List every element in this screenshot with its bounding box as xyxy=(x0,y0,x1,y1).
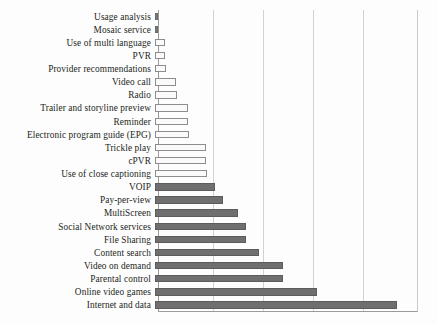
bar-light xyxy=(155,65,166,72)
bar-light xyxy=(155,91,177,98)
chart-row: PVR xyxy=(0,49,437,62)
chart-row: Reminder xyxy=(0,115,437,128)
category-label: Parental control xyxy=(0,274,155,284)
bar-cell xyxy=(155,220,437,233)
bar-light xyxy=(155,78,176,85)
category-label: Mosaic service xyxy=(0,25,155,35)
bar-cell xyxy=(155,76,437,89)
chart-row: MultiScreen xyxy=(0,207,437,220)
bar-cell xyxy=(155,286,437,299)
bar-cell xyxy=(155,233,437,246)
bar-light xyxy=(155,39,165,46)
bar-dark xyxy=(155,262,283,269)
chart-row: Usage analysis xyxy=(0,10,437,23)
bar-light xyxy=(155,157,206,164)
bar-dark xyxy=(155,183,215,190)
bar-cell xyxy=(155,128,437,141)
bar-cell xyxy=(155,63,437,76)
bar-cell xyxy=(155,194,437,207)
category-label: Video call xyxy=(0,77,155,87)
chart-row: Content search xyxy=(0,246,437,259)
category-label: Use of close captioning xyxy=(0,169,155,179)
bar-cell xyxy=(155,181,437,194)
category-label: Online video games xyxy=(0,287,155,297)
bar-dark xyxy=(155,275,283,282)
chart-row: Pay-per-view xyxy=(0,194,437,207)
chart-row: Use of close captioning xyxy=(0,168,437,181)
bar-light xyxy=(155,144,206,151)
chart-row: Parental control xyxy=(0,273,437,286)
chart-row: Provider recommendations xyxy=(0,63,437,76)
chart-row: Trickle play xyxy=(0,141,437,154)
category-label: Provider recommendations xyxy=(0,64,155,74)
chart-row: Trailer and storyline preview xyxy=(0,102,437,115)
bar-cell xyxy=(155,299,437,312)
chart-row: Mosaic service xyxy=(0,23,437,36)
chart-row: Internet and data xyxy=(0,299,437,312)
category-label: Trailer and storyline preview xyxy=(0,103,155,113)
bar-cell xyxy=(155,23,437,36)
bar-cell xyxy=(155,102,437,115)
bar-light xyxy=(155,118,188,125)
chart-row: Video on demand xyxy=(0,259,437,272)
chart-row: Use of multi language xyxy=(0,36,437,49)
bar-cell xyxy=(155,273,437,286)
chart-row: Radio xyxy=(0,89,437,102)
chart-row: Electronic program guide (EPG) xyxy=(0,128,437,141)
bar-dark xyxy=(155,223,246,230)
bar-cell xyxy=(155,154,437,167)
category-label: Video on demand xyxy=(0,261,155,271)
bar-dark xyxy=(155,196,223,203)
category-label: Trickle play xyxy=(0,143,155,153)
bar-cell xyxy=(155,141,437,154)
chart-row: Online video games xyxy=(0,286,437,299)
bar-light xyxy=(155,104,188,111)
category-label: PVR xyxy=(0,51,155,61)
category-label: Reminder xyxy=(0,117,155,127)
chart-row: Video call xyxy=(0,76,437,89)
category-label: Radio xyxy=(0,90,155,100)
category-label: Usage analysis xyxy=(0,12,155,22)
bar-cell xyxy=(155,246,437,259)
horizontal-bar-chart: Usage analysisMosaic serviceUse of multi… xyxy=(0,0,437,324)
bar-cell xyxy=(155,49,437,62)
bar-cell xyxy=(155,115,437,128)
category-label: Use of multi language xyxy=(0,38,155,48)
chart-rows: Usage analysisMosaic serviceUse of multi… xyxy=(0,10,437,312)
chart-row: cPVR xyxy=(0,154,437,167)
category-label: Content search xyxy=(0,248,155,258)
category-label: File Sharing xyxy=(0,235,155,245)
bar-dark xyxy=(155,236,246,243)
bar-dark xyxy=(155,209,238,216)
chart-row: File Sharing xyxy=(0,233,437,246)
bar-cell xyxy=(155,89,437,102)
bar-cell xyxy=(155,36,437,49)
category-label: Pay-per-view xyxy=(0,195,155,205)
bar-cell xyxy=(155,10,437,23)
chart-row: VOIP xyxy=(0,181,437,194)
bar-zero xyxy=(155,26,158,33)
chart-row: Social Network services xyxy=(0,220,437,233)
category-label: Internet and data xyxy=(0,300,155,310)
bar-cell xyxy=(155,259,437,272)
category-label: Electronic program guide (EPG) xyxy=(0,130,155,140)
bar-dark xyxy=(155,288,317,295)
bar-light xyxy=(155,170,207,177)
bar-zero xyxy=(155,13,158,20)
category-label: cPVR xyxy=(0,156,155,166)
bar-dark xyxy=(155,249,259,256)
bar-cell xyxy=(155,207,437,220)
category-label: VOIP xyxy=(0,182,155,192)
bar-light xyxy=(155,131,189,138)
category-label: MultiScreen xyxy=(0,208,155,218)
category-label: Social Network services xyxy=(0,222,155,232)
bar-light xyxy=(155,52,165,59)
bar-dark xyxy=(155,301,397,308)
bar-cell xyxy=(155,168,437,181)
